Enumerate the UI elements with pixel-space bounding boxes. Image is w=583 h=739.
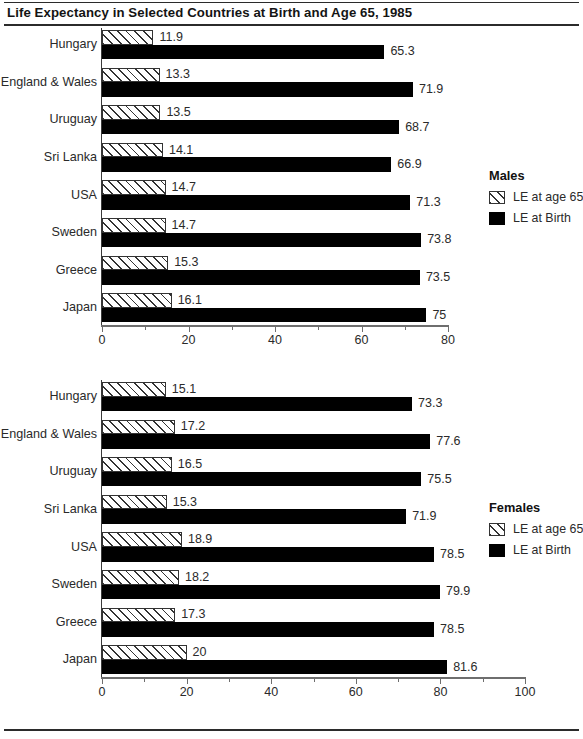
bar-value-birth: 78.5 — [440, 548, 464, 561]
legend-label: LE at Birth — [513, 211, 571, 225]
axis-tick-major — [271, 679, 272, 684]
bar-value-birth: 66.9 — [397, 158, 421, 171]
axis-tick-major — [102, 327, 103, 332]
bar-birth — [102, 157, 391, 172]
axis-tick-label: 20 — [182, 333, 196, 347]
bar-value-age65: 15.3 — [173, 496, 197, 509]
legend-swatch-hatched-icon — [489, 191, 505, 204]
axis-tick-label: 80 — [441, 333, 455, 347]
bar-age65 — [102, 218, 166, 233]
bar-birth — [102, 82, 413, 97]
bar-value-age65: 14.7 — [172, 219, 196, 232]
axis-tick-minor — [232, 327, 233, 331]
bar-value-birth: 71.9 — [419, 83, 443, 96]
axis-tick-minor — [483, 679, 484, 683]
footer-rule — [4, 729, 579, 731]
axis-tick-major — [102, 679, 103, 684]
axis-y-line — [101, 380, 103, 677]
category-label: Greece — [56, 616, 97, 629]
bar-value-age65: 16.5 — [178, 458, 202, 471]
bar-age65 — [102, 420, 175, 435]
axis-tick-label: 80 — [433, 685, 447, 699]
bar-birth — [102, 195, 410, 210]
category-label: Uruguay — [49, 465, 97, 478]
bar-value-age65: 13.3 — [166, 68, 190, 81]
bar-value-age65: 17.2 — [181, 420, 205, 433]
bar-birth — [102, 509, 406, 524]
title-rule-bottom — [4, 24, 579, 26]
legend-swatch-solid-icon — [489, 544, 505, 557]
page-title: Life Expectancy in Selected Countries at… — [7, 5, 577, 20]
bar-age65 — [102, 457, 172, 472]
bar-birth — [102, 472, 421, 487]
category-label: Sweden — [51, 578, 97, 591]
chart-females: 15.173.3Hungary17.277.6England & Wales16… — [0, 380, 583, 720]
axis-tick-label: 60 — [349, 685, 363, 699]
bar-value-birth: 81.6 — [453, 661, 477, 674]
category-label: Uruguay — [49, 113, 97, 126]
legend-label: LE at age 65 — [513, 190, 583, 204]
axis-tick-major — [356, 679, 357, 684]
bar-age65 — [102, 105, 160, 120]
category-label: Sri Lanka — [44, 151, 97, 164]
bar-value-age65: 14.7 — [172, 181, 196, 194]
bar-value-age65: 13.5 — [166, 106, 190, 119]
bar-value-birth: 78.5 — [440, 623, 464, 636]
bar-age65 — [102, 382, 166, 397]
bar-value-birth: 79.9 — [446, 585, 470, 598]
axis-tick-minor — [318, 327, 319, 331]
axis-tick-major — [275, 327, 276, 332]
legend-label: LE at Birth — [513, 543, 571, 557]
bar-value-age65: 15.1 — [172, 383, 196, 396]
legend-title: Males — [489, 168, 525, 183]
axis-tick-label: 40 — [268, 333, 282, 347]
title-rule-top — [4, 2, 579, 3]
legend-title: Females — [489, 500, 540, 515]
bar-age65 — [102, 532, 182, 547]
legend-label: LE at age 65 — [513, 522, 583, 536]
category-label: USA — [71, 541, 97, 554]
axis-tick-label: 100 — [515, 685, 536, 699]
axis-tick-minor — [405, 327, 406, 331]
bar-value-birth: 68.7 — [405, 121, 429, 134]
axis-tick-major — [189, 327, 190, 332]
bar-value-birth: 75.5 — [427, 473, 451, 486]
bar-value-birth: 71.3 — [416, 196, 440, 209]
category-label: Sri Lanka — [44, 503, 97, 516]
category-label: England & Wales — [1, 428, 97, 441]
category-label: Sweden — [51, 226, 97, 239]
axis-y-line — [101, 28, 103, 325]
axis-tick-label: 60 — [355, 333, 369, 347]
bar-value-age65: 11.9 — [159, 31, 182, 44]
category-label: USA — [71, 189, 97, 202]
bar-age65 — [102, 293, 172, 308]
axis-tick-major — [362, 327, 363, 332]
category-label: Greece — [56, 264, 97, 277]
bar-age65 — [102, 256, 168, 271]
bar-value-birth: 73.5 — [426, 271, 450, 284]
axis-tick-label: 40 — [264, 685, 278, 699]
category-label: Japan — [63, 653, 97, 666]
bar-age65 — [102, 68, 160, 83]
bar-value-age65: 17.3 — [181, 608, 205, 621]
bar-age65 — [102, 30, 153, 45]
bar-age65 — [102, 495, 167, 510]
bar-birth — [102, 547, 434, 562]
bar-value-age65: 18.9 — [188, 533, 212, 546]
axis-tick-minor — [398, 679, 399, 683]
category-label: Japan — [63, 301, 97, 314]
bar-value-age65: 16.1 — [178, 294, 202, 307]
legend-swatch-solid-icon — [489, 212, 505, 225]
axis-tick-major — [187, 679, 188, 684]
axis-tick-minor — [145, 327, 146, 331]
bar-birth — [102, 660, 447, 675]
axis-tick-minor — [314, 679, 315, 683]
bar-age65 — [102, 608, 175, 623]
bar-value-birth: 65.3 — [390, 45, 414, 58]
bar-birth — [102, 397, 412, 412]
bar-value-birth: 71.9 — [412, 510, 436, 523]
bar-value-age65: 20 — [193, 646, 207, 659]
bar-age65 — [102, 180, 166, 195]
bar-value-age65: 14.1 — [169, 144, 193, 157]
legend-swatch-hatched-icon — [489, 523, 505, 536]
